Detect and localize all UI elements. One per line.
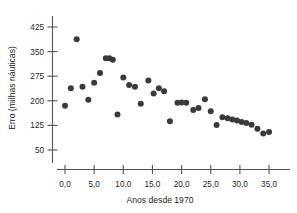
scatter-plot-figure: 501252002753504250,05,010,015,020,025,03… [0,0,297,213]
data-point [74,36,80,42]
data-point [208,108,214,114]
data-point [214,122,220,128]
x-axis-tick-label: 5,0 [88,180,100,189]
data-point [68,85,74,91]
data-point [196,105,202,111]
x-axis-tick-label: 20,0 [174,180,190,189]
data-point [79,84,85,90]
data-point [110,57,116,63]
data-point [85,97,91,103]
data-point [219,114,225,120]
data-point [151,91,157,97]
x-axis-tick-label: 10,0 [115,180,131,189]
x-axis-tick-label: 35,0 [261,180,277,189]
data-point-group [62,36,272,136]
y-axis-tick-label: 350 [30,48,44,57]
data-point [132,84,138,90]
data-point [249,122,255,128]
data-point [243,120,249,126]
data-point [202,96,208,102]
data-point [97,70,103,76]
data-point [156,85,162,91]
x-axis-tick-label: 25,0 [203,180,219,189]
data-point [161,88,167,94]
data-point [145,77,151,83]
y-axis-tick-label: 425 [30,23,44,32]
x-axis-tick-label: 15,0 [144,180,160,189]
data-point [260,131,266,137]
data-point [114,112,120,118]
data-point [190,107,196,113]
data-point [91,80,97,86]
data-point [120,75,126,81]
data-point [62,103,68,109]
data-point [254,126,260,132]
x-axis-tick-label: 30,0 [232,180,248,189]
y-axis-tick-label: 275 [30,72,44,81]
y-axis-tick-label: 125 [30,121,44,130]
data-point [167,118,173,124]
data-point [266,129,272,135]
data-point [183,100,189,106]
data-point [138,101,144,107]
x-axis-title: Anos desde 1970 [127,195,194,205]
y-axis-tick-label: 50 [35,146,45,155]
y-axis-tick-label: 200 [30,97,44,106]
y-axis-title: Erro (milhas náuticas) [7,46,17,130]
x-axis-tick-label: 0,0 [59,180,71,189]
data-point [126,82,132,88]
chart-canvas: 501252002753504250,05,010,015,020,025,03… [0,0,297,213]
